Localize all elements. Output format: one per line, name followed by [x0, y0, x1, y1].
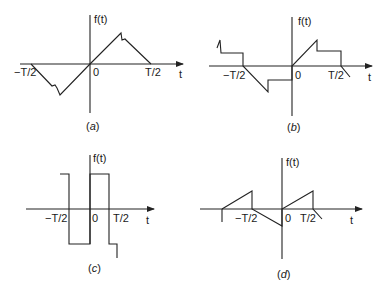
y-axis-label: f(t) — [298, 15, 311, 27]
tick-label-zero: 0 — [295, 69, 301, 81]
x-axis-label: t — [146, 214, 149, 226]
x-axis-label: t — [179, 68, 182, 80]
tick-label-zero: 0 — [285, 212, 291, 224]
y-axis-label: f(t) — [94, 13, 107, 25]
tick-label-pos-half: T/2 — [328, 69, 344, 81]
tick-label-pos-half: T/2 — [113, 212, 129, 224]
tick-label-neg-half: −T/2 — [14, 66, 36, 78]
figure-canvas: f(t) t −T/2 0 T/2 (a) f(t) t −T/2 0 T/2 … — [0, 0, 383, 288]
panel-caption: (c) — [88, 262, 101, 274]
panel-c: f(t) t −T/2 0 T/2 (c) — [26, 152, 154, 274]
panel-b: f(t) t −T/2 0 T/2 (b) — [209, 15, 372, 133]
tick-label-zero: 0 — [92, 212, 98, 224]
panel-caption: (a) — [86, 120, 99, 132]
panel-caption: (d) — [277, 268, 290, 280]
panel-d: f(t) t −T/2 0 T/2 (d) — [200, 156, 362, 280]
tick-label-zero: 0 — [93, 66, 99, 78]
tick-label-pos-half: T/2 — [300, 212, 316, 224]
panel-caption: (b) — [287, 121, 300, 133]
y-axis-label: f(t) — [93, 152, 106, 164]
y-axis-label: f(t) — [286, 156, 299, 168]
tick-label-neg-half: −T/2 — [45, 212, 67, 224]
tick-label-neg-half: −T/2 — [235, 212, 257, 224]
x-axis-label: t — [368, 71, 371, 83]
x-axis-label: t — [350, 214, 353, 226]
panel-a: f(t) t −T/2 0 T/2 (a) — [14, 13, 183, 132]
waveform — [60, 174, 117, 258]
tick-label-neg-half: −T/2 — [223, 69, 245, 81]
tick-label-pos-half: T/2 — [145, 66, 161, 78]
